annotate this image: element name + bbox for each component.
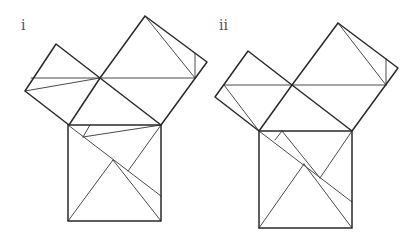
figure-ii: ii bbox=[215, 17, 398, 228]
figure-label-i: i bbox=[21, 17, 26, 33]
dissection-line bbox=[68, 125, 161, 196]
dissection-line bbox=[282, 131, 320, 178]
dissection-line bbox=[83, 125, 90, 137]
figure-label-ii: ii bbox=[219, 17, 228, 33]
dissection-line bbox=[25, 78, 100, 91]
large-square bbox=[292, 23, 398, 131]
figure-i: i bbox=[21, 16, 207, 221]
dissection-line bbox=[259, 164, 304, 228]
dissection-line bbox=[83, 125, 161, 137]
dissection-line bbox=[275, 131, 282, 140]
hypotenuse-square bbox=[259, 131, 352, 228]
small-square bbox=[215, 51, 292, 131]
large-square bbox=[100, 16, 207, 125]
dissection-line bbox=[128, 125, 161, 171]
dissection-line bbox=[320, 131, 352, 178]
hypotenuse-square bbox=[68, 125, 161, 221]
dissection-line bbox=[68, 160, 113, 221]
pythagorean-dissection-diagram: i ii bbox=[0, 0, 420, 246]
